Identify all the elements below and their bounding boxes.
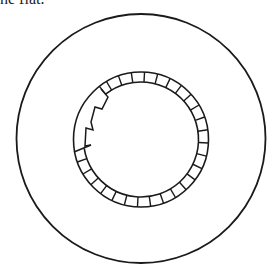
segment-divider	[124, 195, 126, 205]
segment-divider	[187, 174, 195, 180]
damage-boundary-line	[74, 145, 91, 152]
segment-divider	[101, 186, 107, 194]
segment-divider	[166, 79, 170, 88]
segment-divider	[175, 85, 181, 93]
outer-circle	[17, 14, 266, 263]
ring-outer-edge	[74, 72, 209, 207]
segment-divider	[137, 197, 138, 207]
segment-divider	[184, 94, 191, 101]
segment-divider	[144, 72, 145, 82]
segment-divider	[106, 81, 111, 90]
segment-divider	[179, 182, 186, 189]
segment-divider	[155, 74, 157, 84]
ring-inner-edge	[84, 82, 198, 197]
segment-divider	[190, 105, 199, 110]
segment-divider	[193, 164, 202, 168]
segmented-ring	[74, 72, 209, 207]
segment-divider	[118, 76, 121, 85]
segment-divider	[83, 169, 92, 174]
segment-divider	[198, 143, 208, 144]
segment-divider	[160, 194, 163, 203]
annular-ring-diagram	[0, 0, 276, 276]
segment-divider	[131, 73, 132, 83]
segment-divider	[91, 178, 98, 185]
segment-divider	[198, 130, 208, 131]
segment-divider	[170, 189, 175, 198]
segment-divider	[77, 159, 86, 162]
segment-divider	[149, 196, 150, 206]
figure: he flat.	[0, 0, 276, 276]
segment-divider	[197, 154, 207, 156]
segment-divider	[195, 117, 204, 120]
segment-divider	[112, 191, 116, 200]
